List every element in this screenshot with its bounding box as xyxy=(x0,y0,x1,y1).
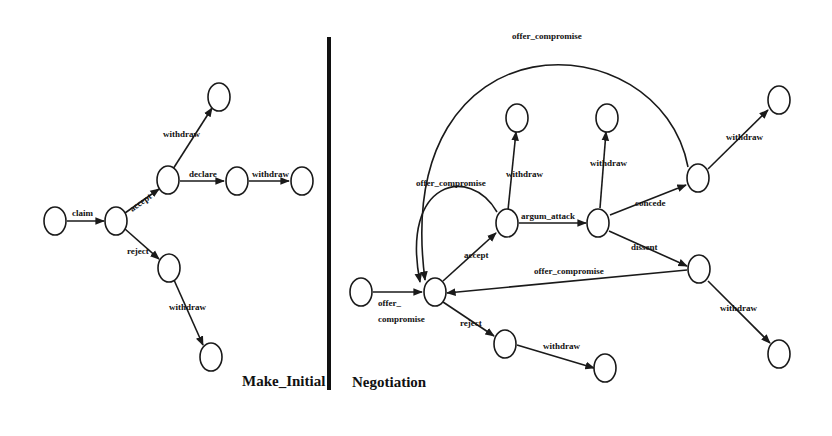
label-argum-attack: argum_attack xyxy=(521,211,575,221)
panel-title-negotiation: Negotiation xyxy=(352,374,427,390)
label-dissent: dissent xyxy=(631,242,658,252)
label-withdraw-reject: withdraw xyxy=(169,302,207,312)
state-node xyxy=(105,207,127,235)
label-withdraw-reject: withdraw xyxy=(543,341,581,351)
panel-title-make-initial: Make_Initial xyxy=(242,373,325,389)
label-offer-line2: compromise xyxy=(378,314,425,324)
state-node xyxy=(350,278,372,306)
state-node xyxy=(506,104,528,132)
state-node xyxy=(594,354,616,382)
make-initial-panel: claim accept reject withdraw declare wit… xyxy=(44,83,325,389)
state-node xyxy=(587,209,609,237)
label-reject: reject xyxy=(460,318,482,328)
state-diagram: claim accept reject withdraw declare wit… xyxy=(0,0,832,436)
label-withdraw-dissent: withdraw xyxy=(720,303,758,313)
state-node xyxy=(596,104,618,132)
state-node xyxy=(291,167,313,195)
negotiation-panel: offer_ compromise accept reject withdraw… xyxy=(350,31,790,390)
label-self-loop: offer_compromise xyxy=(416,178,486,188)
label-offer-line1: offer_ xyxy=(378,298,401,308)
state-node xyxy=(44,207,66,235)
label-accept: accept xyxy=(128,191,154,213)
state-node xyxy=(496,209,518,237)
label-accept: accept xyxy=(464,250,489,260)
label-withdraw-accept: withdraw xyxy=(506,169,544,179)
state-node xyxy=(208,83,230,111)
state-node xyxy=(494,330,516,358)
edge-withdraw-reject xyxy=(174,280,203,345)
state-node xyxy=(157,166,179,194)
state-node xyxy=(768,86,790,114)
label-dissent-back: offer_compromise xyxy=(534,266,604,276)
label-concede: concede xyxy=(635,198,666,208)
label-big-arc: offer_compromise xyxy=(512,31,582,41)
label-withdraw-declare: withdraw xyxy=(252,169,290,179)
state-node xyxy=(768,340,790,368)
state-node xyxy=(688,255,710,283)
state-node xyxy=(158,254,180,282)
label-withdraw-argum: withdraw xyxy=(590,158,628,168)
label-withdraw-concede: withdraw xyxy=(726,132,764,142)
label-reject: reject xyxy=(127,246,149,256)
state-node xyxy=(200,343,222,371)
label-declare: declare xyxy=(189,169,217,179)
state-node xyxy=(424,278,446,306)
state-node xyxy=(687,164,709,192)
state-node xyxy=(226,167,248,195)
label-claim: claim xyxy=(72,208,93,218)
edge-withdraw-argum xyxy=(600,132,606,208)
label-withdraw-top: withdraw xyxy=(163,129,201,139)
